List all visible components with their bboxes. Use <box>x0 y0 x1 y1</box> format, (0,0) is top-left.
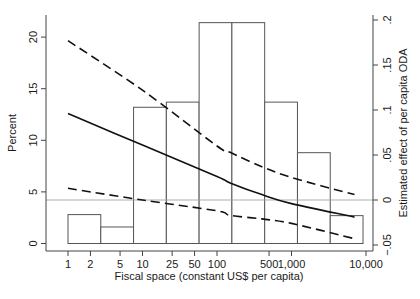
histogram-bar <box>134 107 167 243</box>
right-y-tick-label: .05 <box>381 147 393 162</box>
left-y-tick-label: 5 <box>27 189 39 195</box>
x-tick-label: 2 <box>87 258 93 270</box>
histogram-bar <box>297 153 330 244</box>
x-tick-label: 10 <box>136 258 148 270</box>
x-tick-label: 10,000 <box>349 258 383 270</box>
left-y-tick-label: 10 <box>27 134 39 146</box>
histogram-bar <box>265 102 298 243</box>
left-y-tick-label: 20 <box>27 31 39 43</box>
left-y-axis-title: Percent <box>6 114 18 152</box>
x-tick-label: 500 <box>260 258 278 270</box>
right-y-tick-label: .2 <box>381 15 393 24</box>
histogram-bar <box>101 227 134 244</box>
x-tick-label: 1 <box>65 258 71 270</box>
right-y-axis-title: Estimated effect of per capita ODA <box>397 48 409 218</box>
right-y-tick-label: .15 <box>381 57 393 72</box>
x-tick-label: 5 <box>117 258 123 270</box>
x-tick-label: 25 <box>166 258 178 270</box>
left-y-tick-label: 15 <box>27 83 39 95</box>
right-y-ticks: −.050.05.1.15.2 <box>373 15 393 255</box>
left-y-tick-label: 0 <box>27 240 39 246</box>
histogram-bar <box>232 23 265 244</box>
left-y-ticks: 05101520 <box>27 31 46 247</box>
histogram-bar <box>166 102 199 243</box>
histogram-bar <box>68 215 101 244</box>
histogram-bar <box>330 216 363 244</box>
right-y-tick-label: −.05 <box>381 234 393 256</box>
right-y-tick-label: .1 <box>381 105 393 114</box>
x-tick-label: 100 <box>208 258 226 270</box>
x-axis-title: Fiscal space (constant US$ per capita) <box>115 270 304 282</box>
x-tick-label: 50 <box>188 258 200 270</box>
x-tick-label: 1,000 <box>278 258 306 270</box>
x-ticks: 1251025501005001,00010,000 <box>65 251 383 270</box>
chart: 1251025501005001,00010,000 05101520 −.05… <box>0 0 420 299</box>
right-y-tick-label: 0 <box>381 197 393 203</box>
